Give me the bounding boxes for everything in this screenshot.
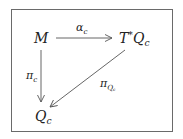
node-Q: Qc (35, 109, 52, 126)
node-T-label: T (119, 30, 128, 46)
node-Q-label: Q (133, 30, 144, 46)
node-M-label: M (34, 30, 48, 46)
edge-label-pi: πc (26, 70, 37, 83)
pi-subscript: c (33, 75, 37, 84)
piQ-subscript: Qc (107, 83, 115, 92)
alpha-subscript: c (83, 27, 87, 36)
node-Q-subscript: c (144, 38, 149, 48)
edge-label-piQ: πQc (100, 78, 116, 92)
node-M: M (34, 31, 48, 45)
edge-label-alpha: αc (76, 22, 87, 35)
node-Q-base-subscript: c (46, 116, 51, 126)
piQ-subscript-c: c (113, 87, 115, 92)
node-cotangent-bundle: T*Qc (119, 31, 149, 48)
node-Q-base-label: Q (35, 108, 46, 124)
